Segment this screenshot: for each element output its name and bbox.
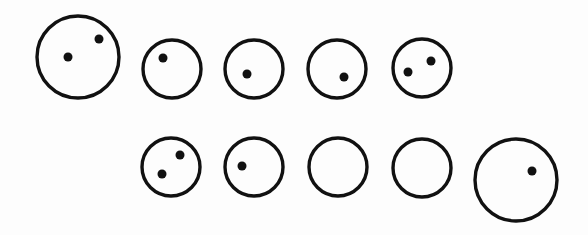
circle-outline: [142, 138, 200, 196]
dot: [159, 54, 168, 63]
circles-diagram: [0, 0, 588, 235]
circle-small-1-dots: [143, 40, 201, 98]
circle-outline: [143, 40, 201, 98]
dot: [238, 162, 247, 171]
circle-large-2-dots: [37, 16, 119, 98]
circle-outline: [308, 40, 366, 98]
circle-outline: [475, 139, 557, 221]
circle-outline: [309, 138, 367, 196]
dot: [95, 35, 104, 44]
circle-outline: [225, 40, 283, 98]
dot: [176, 151, 185, 160]
dot: [528, 167, 537, 176]
circle-large-1-dots: [475, 139, 557, 221]
dot: [404, 68, 413, 77]
dot: [427, 57, 436, 66]
circle-small-1-dots: [308, 40, 366, 98]
circle-outline: [393, 39, 451, 97]
circle-small-0-dots: [309, 138, 367, 196]
dot: [340, 73, 349, 82]
circle-small-1-dots: [225, 40, 283, 98]
circle-outline: [225, 138, 283, 196]
circle-outline: [393, 139, 451, 197]
dot: [158, 170, 167, 179]
dot: [243, 70, 252, 79]
circle-small-1-dots: [225, 138, 283, 196]
circle-outline: [37, 16, 119, 98]
dot: [64, 53, 73, 62]
circle-small-2-dots: [393, 39, 451, 97]
circle-small-0-dots: [393, 139, 451, 197]
circle-small-2-dots: [142, 138, 200, 196]
